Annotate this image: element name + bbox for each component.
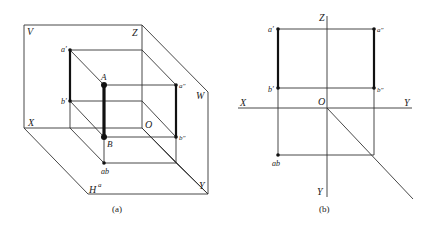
figure-a-thick [70, 50, 176, 137]
label-Z: Z [319, 12, 325, 23]
caption-b: (b) [319, 204, 330, 214]
label-Y-horizontal: Y [404, 97, 411, 108]
label-H: H [88, 184, 97, 195]
figure-b [238, 16, 413, 199]
figure-b-thick [278, 29, 374, 88]
label-h-mark: a [98, 181, 102, 189]
label-a-prime: a′ [268, 25, 274, 34]
label-X: X [239, 97, 247, 108]
label-ab: ab [101, 167, 109, 176]
label-b-prime: b′ [61, 97, 67, 106]
label-a-prime: a′ [61, 45, 67, 54]
figure-b-points [276, 27, 376, 157]
label-Y: Y [199, 180, 206, 191]
label-V: V [27, 26, 35, 37]
diagonal-45 [327, 108, 413, 199]
label-a-dprime: a″ [179, 82, 186, 90]
caption-a: (a) [112, 204, 122, 214]
label-ab: ab [272, 159, 280, 168]
label-a-dprime: a″ [377, 26, 384, 34]
label-b-prime: b′ [268, 85, 274, 94]
label-W: W [196, 90, 206, 101]
figure-b-labels: Z X O Y Y a′ b′ a″ b″ ab (b) [239, 12, 411, 214]
label-O: O [145, 119, 152, 130]
figure-a [24, 25, 208, 194]
label-B: B [107, 139, 113, 149]
projection-diagram: V Z W X O Y H a a′ b′ A B a″ b″ ab (a) [0, 0, 429, 227]
label-Y-vertical: Y [317, 186, 324, 197]
label-O: O [318, 96, 325, 107]
label-Z: Z [132, 27, 138, 38]
label-X: X [27, 117, 35, 128]
label-b-dprime: b″ [179, 134, 186, 142]
label-A: A [100, 72, 107, 82]
label-b-dprime: b″ [377, 86, 384, 94]
v-plane [24, 25, 142, 128]
figure-a-labels: V Z W X O Y H a a′ b′ A B a″ b″ ab (a) [27, 26, 206, 214]
